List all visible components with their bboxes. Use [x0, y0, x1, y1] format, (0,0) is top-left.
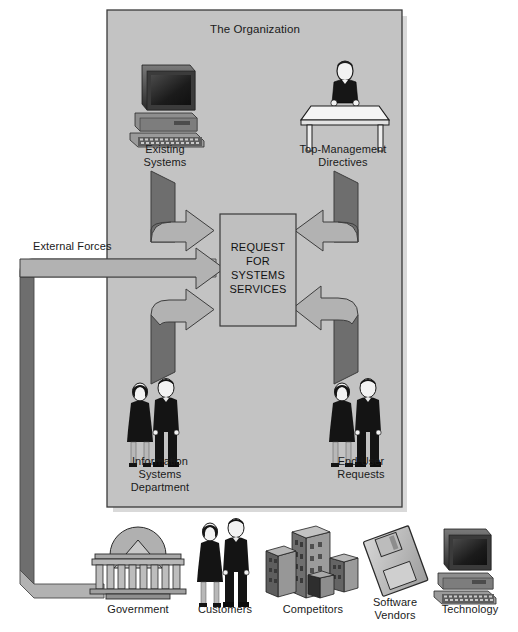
- label-government: Government: [93, 603, 183, 616]
- office-buildings-icon: [266, 526, 358, 598]
- label-customers: Customers: [180, 603, 270, 616]
- label-competitors: Competitors: [268, 603, 358, 616]
- organization-title: The Organization: [175, 23, 335, 36]
- two-people-icon-customers: [197, 519, 249, 608]
- label-software-vendors: Software Vendors: [357, 596, 433, 622]
- label-existing-systems: Existing Systems: [115, 143, 215, 169]
- external-forces-label: External Forces: [33, 240, 143, 253]
- diagram-canvas: The Organization REQUEST FOR SYSTEMS SER…: [0, 0, 518, 632]
- label-technology: Technology: [430, 603, 510, 616]
- label-end-user-requests: End User Requests: [316, 455, 406, 481]
- desktop-computer-icon-technology: [434, 529, 496, 604]
- center-box-text: REQUEST FOR SYSTEMS SERVICES: [220, 240, 296, 296]
- diagram-graphics: [0, 0, 518, 632]
- label-information-systems-department: Information Systems Department: [110, 455, 210, 494]
- label-top-management-directives: Top-Management Directives: [288, 143, 398, 169]
- floppy-disk-icon: [363, 526, 428, 597]
